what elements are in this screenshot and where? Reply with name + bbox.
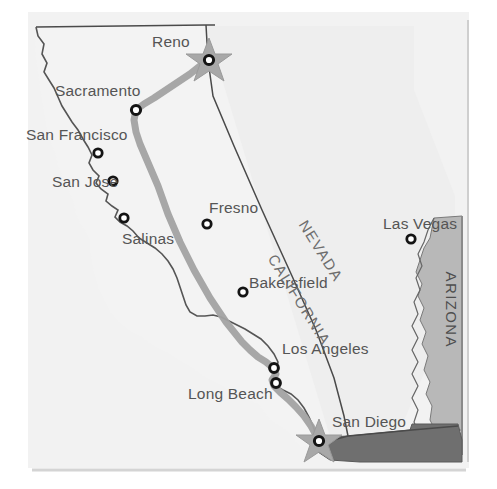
city-dot-san-diego	[314, 436, 323, 445]
city-dot-sacramento	[131, 105, 140, 114]
city-dot-san-francisco	[94, 149, 102, 157]
city-dot-fresno	[203, 220, 211, 228]
city-dot-san-jose	[109, 177, 117, 185]
city-dot-los-angeles	[270, 364, 279, 373]
city-dot-long-beach	[272, 379, 281, 388]
map-graphics	[0, 0, 497, 489]
city-dot-las-vegas	[407, 235, 415, 243]
city-dot-salinas	[120, 214, 128, 222]
city-dot-bakersfield	[239, 288, 247, 296]
city-dot-reno	[204, 55, 213, 64]
map-canvas: Reno Sacramento San Francisco San Jose S…	[0, 0, 497, 489]
